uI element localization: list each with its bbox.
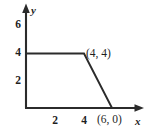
figure-canvas: [0, 0, 151, 133]
y-axis-label: y: [31, 5, 36, 16]
x-tick-label-2: 2: [47, 115, 63, 127]
x-axis-label: x: [135, 116, 141, 127]
y-tick-label-4: 4: [10, 47, 21, 59]
y-tick-label-6: 6: [10, 19, 21, 31]
trapezoid-outline: [26, 54, 112, 109]
y-axis-arrowhead-icon: [22, 4, 30, 14]
x-tick-label-4: 4: [76, 115, 92, 127]
point-label-4-4: (4, 4): [86, 48, 111, 60]
coordinate-figure: 6 4 2 2 4 y x (4, 4) (6, 0): [0, 0, 151, 133]
y-tick-label-2: 2: [10, 75, 21, 87]
point-label-6-0: (6, 0): [97, 114, 122, 126]
x-axis-arrowhead-icon: [135, 104, 145, 111]
